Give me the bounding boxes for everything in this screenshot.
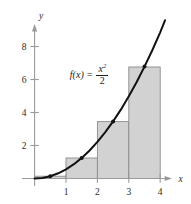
x-axis-arrow	[165, 176, 172, 181]
sample-point-4	[143, 65, 147, 69]
x-tick-labels: 1 2 3 4	[64, 187, 163, 197]
plot-canvas: 8 6 4 2 1 2 3 4 y x	[0, 0, 191, 204]
rect-2	[66, 158, 97, 179]
y-tick-labels: 8 6 4 2	[22, 42, 27, 151]
sample-point-1	[48, 174, 52, 178]
x-tick-label-4: 4	[158, 187, 163, 197]
rect-4	[129, 67, 160, 179]
riemann-rectangles	[35, 67, 161, 179]
y-tick-label-2: 2	[22, 141, 27, 151]
y-tick-label-6: 6	[22, 75, 27, 85]
y-axis	[32, 24, 37, 186]
y-tick-label-8: 8	[22, 42, 27, 52]
y-axis-label: y	[38, 11, 44, 21]
x-tick-label-1: 1	[64, 187, 69, 197]
sample-point-2	[80, 156, 84, 160]
rect-3	[97, 122, 128, 179]
x-axis-label: x	[177, 174, 183, 184]
sample-point-3	[111, 119, 115, 123]
x-tick-label-2: 2	[95, 187, 100, 197]
x-tick-label-3: 3	[126, 187, 131, 197]
y-axis-arrow	[32, 24, 37, 32]
midpoint-riemann-sum-figure: 8 6 4 2 1 2 3 4 y x f(x) = x	[0, 0, 191, 204]
y-tick-label-4: 4	[22, 108, 27, 118]
